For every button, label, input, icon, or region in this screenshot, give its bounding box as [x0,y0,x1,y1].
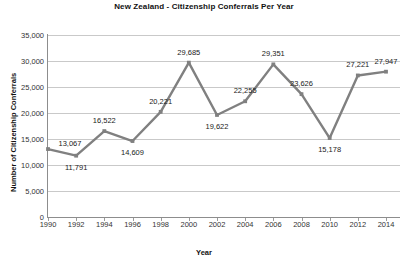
x-axis-tick-label: 2010 [321,220,338,229]
x-axis-tick-label: 2008 [293,220,310,229]
data-point-label: 29,685 [177,47,200,56]
data-point-label: 29,351 [262,49,285,58]
x-axis-tick-label: 2000 [180,220,197,229]
data-point-label: 13,067 [59,139,82,148]
data-point-marker [74,154,78,158]
y-axis-tick-label: 30,000 [21,57,44,66]
y-axis-tick-labels: 35,00030,00025,00020,00015,00010,0005,00… [0,0,44,259]
x-axis-tick-mark [133,218,134,221]
x-axis-tick-label: 1994 [96,220,113,229]
data-point-marker [187,61,191,65]
x-axis-tick-label: 2006 [265,220,282,229]
chart-container: New Zealand - Citizenship Conferrals Per… [0,0,408,259]
data-point-marker [102,129,106,133]
series-line [48,63,386,156]
data-point-label: 16,522 [93,116,116,125]
x-axis-tick-label: 2012 [349,220,366,229]
data-point-marker [271,62,275,66]
data-point-marker [159,110,163,114]
x-axis-tick-mark [273,218,274,221]
data-point-label: 15,178 [318,145,341,154]
data-point-marker [243,99,247,103]
data-point-marker [215,113,219,117]
x-axis-tick-mark [358,218,359,221]
x-axis-tick-mark [48,218,49,221]
x-axis-tick-mark [161,218,162,221]
x-axis-tick-label: 1990 [40,220,57,229]
x-axis-tick-mark [104,218,105,221]
y-axis-tick-label: 20,000 [21,109,44,118]
data-point-label: 11,791 [65,162,87,171]
data-point-marker [384,70,388,74]
x-axis-tick-label: 1992 [68,220,85,229]
data-point-marker [300,92,304,96]
data-point-marker [328,136,332,140]
x-axis-tick-mark [330,218,331,221]
chart-title: New Zealand - Citizenship Conferrals Per… [0,2,408,11]
x-axis-tick-mark [386,218,387,221]
x-axis-tick-mark [217,218,218,221]
x-axis-title: Year [0,248,408,257]
y-axis-tick-label: 25,000 [21,83,44,92]
x-axis-tick-mark [245,218,246,221]
x-axis-tick-mark [76,218,77,221]
data-point-label: 27,947 [375,56,398,65]
x-axis-tick-label: 1998 [152,220,169,229]
y-axis-tick-label: 5,000 [25,187,44,196]
x-axis-tick-label: 2004 [237,220,254,229]
data-point-label: 27,221 [346,60,369,69]
data-point-marker [356,74,360,78]
y-axis-tick-label: 15,000 [21,135,44,144]
data-point-label: 14,609 [121,148,144,157]
x-axis-tick-mark [189,218,190,221]
x-axis-tick-label: 2002 [209,220,226,229]
y-axis-tick-label: 35,000 [21,31,44,40]
data-point-label: 20,221 [149,96,172,105]
y-axis-tick-label: 10,000 [21,161,44,170]
data-point-label: 22,255 [234,86,257,95]
x-axis-tick-label: 2014 [378,220,395,229]
x-axis-line [47,217,400,218]
data-point-label: 23,626 [290,79,313,88]
x-axis-tick-label: 1996 [124,220,141,229]
data-point-marker [131,139,135,143]
data-point-marker [46,147,50,151]
x-axis-tick-mark [302,218,303,221]
data-point-label: 19,622 [206,121,229,130]
